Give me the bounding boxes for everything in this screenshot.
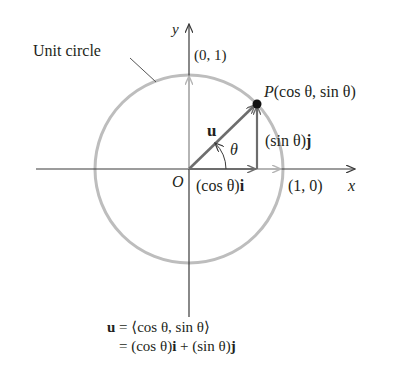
x-axis-label: x [348, 178, 355, 194]
equation-line-1: u = ⟨cos θ, sin θ⟩ [107, 320, 210, 335]
point-1-0-label: (1, 0) [288, 178, 323, 194]
vector-u-label: u [207, 122, 216, 139]
point-p-name: P [264, 83, 274, 100]
point-p-label: P(cos θ, sin θ) [264, 84, 356, 100]
sin-component-label: (sin θ)j [265, 133, 311, 149]
vector-u [189, 105, 255, 169]
equation-line-2: = (cos θ)i + (sin θ)j [119, 339, 236, 354]
point-p-coords: (cos θ, sin θ) [274, 83, 356, 100]
sin-component-coef: (sin θ) [265, 132, 306, 149]
cos-component-coef: (cos θ) [196, 177, 240, 194]
equation-j: j [231, 338, 236, 354]
equation-rhs-2a: = (cos θ) [119, 338, 172, 354]
point-p [253, 100, 262, 109]
angle-theta-label: θ [230, 142, 238, 158]
origin-label: O [172, 174, 184, 190]
angle-arc [215, 143, 226, 169]
equation-rhs-2b: + (sin θ) [176, 338, 230, 354]
sin-component-unit: j [306, 132, 311, 149]
point-0-1-label: (0, 1) [194, 48, 227, 63]
y-axis-label: y [172, 22, 179, 37]
cos-component-unit: i [240, 177, 244, 194]
unit-circle-label: Unit circle [33, 43, 101, 59]
unit-circle-leader [130, 58, 156, 82]
equation-rhs-1: = ⟨cos θ, sin θ⟩ [115, 319, 210, 335]
cos-component-label: (cos θ)i [196, 178, 244, 194]
